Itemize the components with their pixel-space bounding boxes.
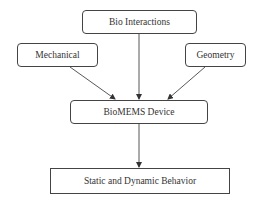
- edge-geometry-to-device: [168, 67, 205, 99]
- edge-mechanical-to-device: [70, 67, 115, 99]
- node-biomems-device: BioMEMS Device: [70, 100, 208, 124]
- node-label: Mechanical: [35, 50, 79, 60]
- node-static-dynamic-behavior: Static and Dynamic Behavior: [50, 168, 230, 194]
- node-mechanical: Mechanical: [17, 43, 98, 67]
- node-bio-interactions: Bio Interactions: [82, 10, 197, 34]
- node-label: Geometry: [197, 50, 235, 60]
- node-label: Static and Dynamic Behavior: [84, 176, 196, 186]
- node-label: Bio Interactions: [109, 17, 170, 27]
- node-geometry: Geometry: [185, 43, 246, 67]
- node-label: BioMEMS Device: [104, 107, 175, 117]
